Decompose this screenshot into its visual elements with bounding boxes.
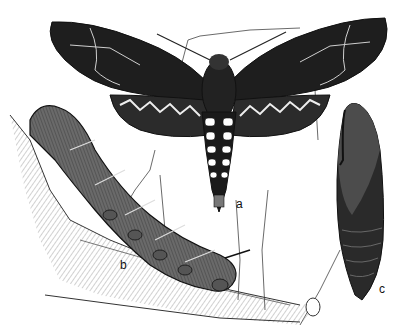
label-c: c <box>379 282 385 296</box>
illustration-drawing <box>0 0 407 329</box>
label-a: a <box>236 197 243 211</box>
illustration: a b c <box>0 0 407 329</box>
pupa <box>337 103 384 300</box>
label-b: b <box>120 258 127 272</box>
